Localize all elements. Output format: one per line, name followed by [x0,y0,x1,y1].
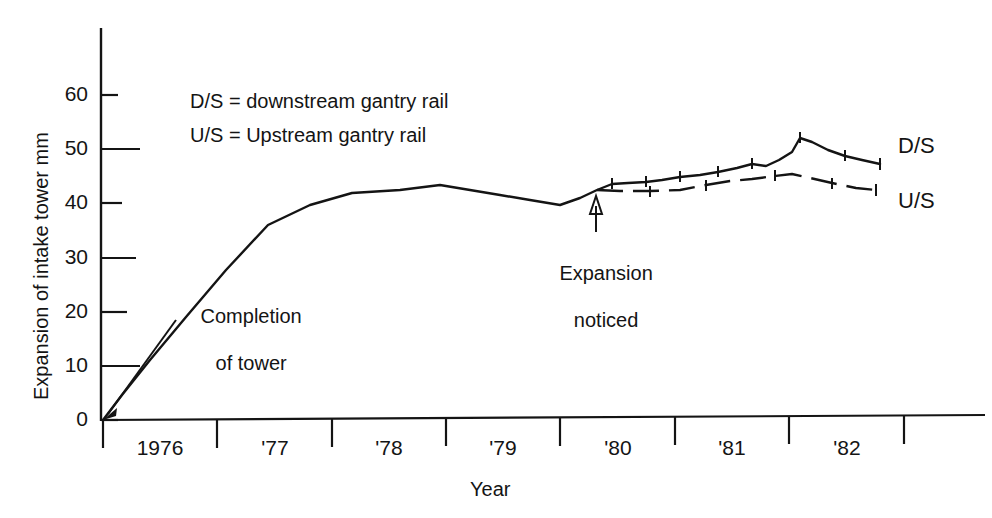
annotation-arrow-completion [103,320,176,420]
annotation-arrow-expansion [590,196,602,232]
plot-canvas [0,0,992,518]
chart-figure: Expansion of intake tower mm 0 10 20 30 … [0,0,992,518]
series-markers-us [650,170,876,197]
series-line-ds [103,138,880,420]
x-tick-marks [103,416,904,448]
y-tick-marks [101,95,140,420]
x-axis-line [101,415,985,420]
